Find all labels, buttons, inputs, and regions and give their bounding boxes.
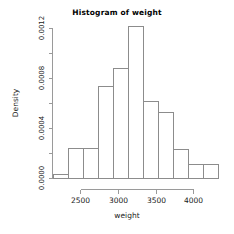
y-tick-label-2: 0.0008	[38, 66, 46, 91]
plot-area: 0.0000 0.0004 0.0008 0.0012 Density	[0, 0, 234, 234]
y-tick-label-1: 0.0004	[38, 115, 46, 140]
y-tick-label-3: 0.0012	[38, 16, 46, 41]
histogram-bar	[114, 69, 129, 179]
histogram-figure: Histogram of weight 0.0000 0.0004 0.0008…	[0, 0, 234, 234]
histogram-bar	[144, 101, 159, 179]
histogram-bar	[69, 149, 84, 179]
x-tick-label-1: 3000	[109, 196, 128, 205]
histogram-bars	[54, 26, 219, 179]
histogram-bar	[54, 175, 69, 179]
x-axis-title: weight	[114, 211, 139, 220]
x-tick-label-3: 4000	[184, 196, 203, 205]
histogram-bar	[204, 165, 219, 179]
histogram-bar	[159, 112, 174, 178]
y-axis-ticks	[49, 29, 53, 179]
y-tick-label-0: 0.0000	[38, 166, 46, 191]
histogram-bar	[99, 86, 114, 179]
histogram-bar	[189, 165, 204, 179]
histogram-bar	[84, 149, 99, 179]
x-tick-label-0: 2500	[71, 196, 90, 205]
histogram-bar	[174, 150, 189, 179]
x-axis-ticks	[81, 190, 194, 194]
x-tick-label-2: 3500	[147, 196, 166, 205]
y-axis-title: Density	[11, 88, 20, 117]
histogram-bar	[129, 26, 144, 179]
